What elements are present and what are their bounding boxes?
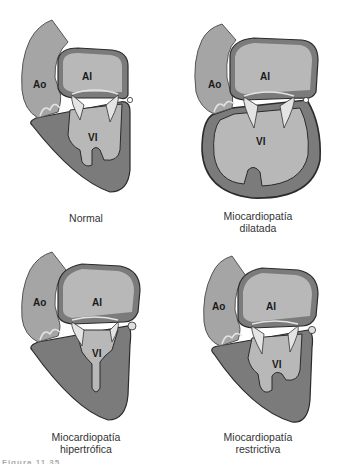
label-al: AI <box>266 301 276 312</box>
caption-restrictiva: Miocardiopatía restrictiva <box>172 431 344 455</box>
caption-line1: Miocardiopatía <box>172 431 344 443</box>
caption-line1: Miocardiopatía <box>0 431 172 443</box>
caption-line2: hipertrófica <box>0 443 172 455</box>
heart-dilatada-illustration: Ao AI VI <box>172 0 344 205</box>
label-vi: VI <box>88 132 98 143</box>
heart-normal-illustration: Ao AI VI <box>0 0 172 200</box>
panel-restrictiva: Ao AI VI Miocardiopatía restrictiva <box>172 230 344 467</box>
label-vi: VI <box>272 359 282 370</box>
label-ao: Ao <box>208 79 221 90</box>
heart-restrictiva-illustration: Ao AI VI <box>172 230 344 430</box>
label-al: AI <box>82 71 92 82</box>
label-vi: VI <box>256 136 266 147</box>
figure-caption-partial: Figura 11.35 <box>2 458 60 464</box>
caption-normal: Normal <box>0 212 172 224</box>
caption-line2: restrictiva <box>172 443 344 455</box>
label-vi: VI <box>92 348 102 359</box>
panel-dilatada: Ao AI VI Miocardiopatía dilatada <box>172 0 344 230</box>
heart-hipertrofica-illustration: Ao AI VI <box>0 230 172 430</box>
caption-line1: Miocardiopatía <box>172 210 344 222</box>
label-ao: Ao <box>212 301 225 312</box>
label-al: AI <box>92 297 102 308</box>
panel-hipertrofica: Ao AI VI Miocardiopatía hipertrófica <box>0 230 172 467</box>
label-ao: Ao <box>33 79 46 90</box>
label-ao: Ao <box>33 297 46 308</box>
label-al: AI <box>260 71 270 82</box>
panel-normal: Ao AI VI Normal <box>0 0 172 230</box>
caption-hipertrofica: Miocardiopatía hipertrófica <box>0 431 172 455</box>
